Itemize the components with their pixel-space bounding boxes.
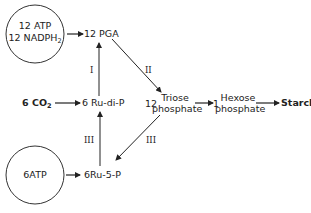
step-label-iii-right: III (146, 136, 156, 145)
node-ru5p: 6Ru-5-P (84, 170, 121, 180)
energy-top-atp: 12 ATP (8, 21, 62, 31)
node-hexose-line2: phosphate (215, 104, 261, 114)
energy-top-nadph: 12 NADPH2 (6, 33, 64, 45)
step-label-iii-left: III (84, 136, 94, 145)
node-triose-line1: Triose (154, 93, 196, 103)
energy-bottom-atp: 6ATP (10, 170, 60, 180)
node-triose-line2: phosphate (152, 104, 198, 114)
arrow-pga-to-triose (112, 39, 161, 92)
node-hexose-line1: Hexose (218, 93, 258, 103)
node-co2: 6 CO2 (22, 98, 52, 110)
node-rudip: 6 Ru-di-P (82, 98, 125, 108)
step-label-i: I (90, 66, 93, 75)
step-label-ii: II (145, 66, 152, 75)
calvin-cycle-diagram: 12 ATP 12 NADPH2 12 PGA I II 6 CO2 6 Ru-… (0, 0, 311, 213)
node-pga: 12 PGA (84, 29, 119, 39)
node-starch: Starch (281, 98, 311, 108)
